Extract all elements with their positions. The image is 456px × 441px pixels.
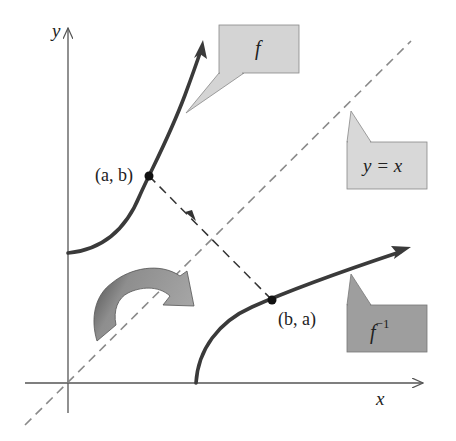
callout-f: f <box>186 25 299 113</box>
callout-f-inverse: f−1 <box>347 274 427 352</box>
point-b-a <box>268 296 277 305</box>
identity-line <box>25 41 411 425</box>
inverse-function-diagram: x y (a, b) (b, a) f y = x f−1 <box>0 0 456 441</box>
x-axis-label: x <box>375 388 385 409</box>
y-axis-label: y <box>50 20 61 41</box>
reflection-arrow-icon <box>94 268 194 341</box>
point-a-b <box>145 172 154 181</box>
point-b-a-label: (b, a) <box>278 309 316 330</box>
point-a-b-label: (a, b) <box>95 165 133 186</box>
callout-identity: y = x <box>347 111 427 189</box>
reflection-direction-arrow-icon <box>185 210 196 221</box>
curve-f <box>68 40 207 253</box>
callout-identity-label: y = x <box>361 155 403 176</box>
